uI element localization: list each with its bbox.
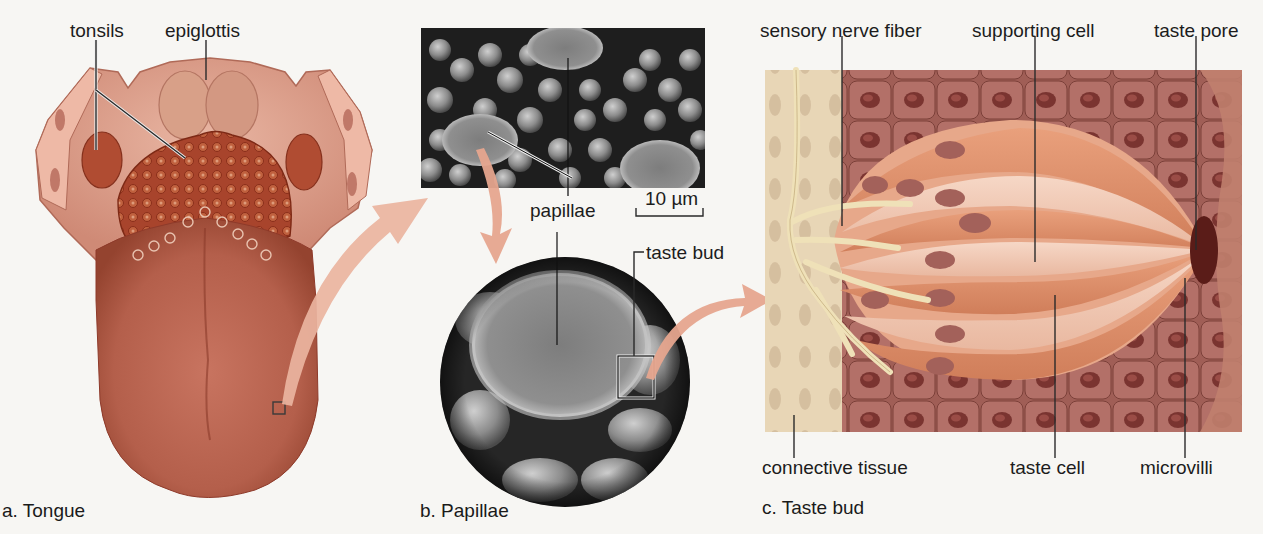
label-supporting-cell: supporting cell (972, 20, 1095, 42)
papillae-micrographs (400, 0, 760, 534)
label-scale-bar: 10 µm (645, 188, 698, 210)
panel-papillae: papillae 10 µm taste bud b. Papillae (400, 0, 760, 534)
panel-taste-bud: sensory nerve fiber supporting cell tast… (760, 0, 1263, 534)
sem-papilla-closeup (430, 250, 710, 520)
label-taste-cell: taste cell (1010, 457, 1085, 479)
label-papillae: papillae (530, 200, 596, 222)
label-tonsils: tonsils (70, 20, 124, 42)
caption-tongue: a. Tongue (2, 500, 85, 522)
label-sensory-nerve-fiber: sensory nerve fiber (760, 20, 922, 42)
taste-pore (1190, 216, 1218, 284)
taste-bud-illustration (760, 0, 1263, 534)
caption-papillae: b. Papillae (420, 500, 509, 522)
label-taste-pore: taste pore (1154, 20, 1239, 42)
label-epiglottis: epiglottis (165, 20, 240, 42)
caption-taste-bud: c. Taste bud (762, 497, 864, 519)
label-connective-tissue: connective tissue (762, 457, 908, 479)
label-microvilli: microvilli (1140, 457, 1213, 479)
label-taste-bud: taste bud (646, 242, 724, 264)
sem-papillae-overview (418, 26, 710, 196)
panel-tongue: tonsils epiglottis a. Tongue (0, 0, 400, 534)
tongue-illustration (0, 0, 400, 534)
